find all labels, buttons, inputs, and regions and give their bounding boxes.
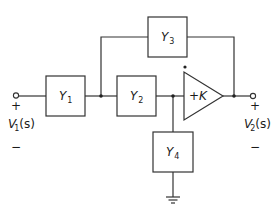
block-y2: Y2 [117,76,156,116]
output-minus-sign: − [250,140,260,154]
block-y2-subscript: 2 [138,96,143,105]
input-minus-sign: − [11,140,21,154]
circuit-diagram: Y1 Y2 Y3 Y4 +K + V1(s) − + V2(s) − [0,0,279,220]
output-terminal [250,93,255,98]
junction-node-a [99,94,103,98]
block-y4: Y4 [153,132,193,172]
block-y3: Y3 [148,17,187,57]
input-plus-sign: + [11,99,21,113]
block-y4-subscript: 4 [174,152,179,161]
junction-node-b [171,94,175,98]
output-voltage-label: V2(s) [244,117,271,133]
output-plus-sign: + [250,99,260,113]
block-y1: Y1 [46,76,85,116]
input-terminal [13,93,18,98]
ground-icon [166,197,180,203]
amplifier-gain-label: +K [189,89,208,103]
amplifier: +K [183,65,223,120]
amplifier-reference-dot [183,65,186,68]
block-y3-subscript: 3 [169,37,174,46]
input-voltage-label: V1(s) [8,117,35,133]
junction-output [232,94,236,98]
block-y1-subscript: 1 [67,96,72,105]
